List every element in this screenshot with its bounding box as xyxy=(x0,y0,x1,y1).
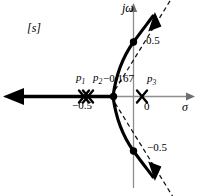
breakaway-point-label: −0.167 xyxy=(103,73,134,84)
origin-tick-label: 0 xyxy=(144,101,150,112)
s-plane-label: [s] xyxy=(27,22,41,34)
imaginary-axis xyxy=(130,3,137,188)
imag-crossing-positive-marker xyxy=(130,38,137,45)
pole-label-p2: p2 xyxy=(93,72,102,86)
pole-label-p3-subscript: 3 xyxy=(153,78,157,87)
pole-label-p1-subscript: 1 xyxy=(82,77,86,86)
pole-label-p3: p3 xyxy=(147,73,156,87)
root-locus-figure: [s] jω σ p1 p2 p3 −0.5 0 −0.167 0.5 −0.5 xyxy=(0,0,201,196)
breakaway-point-marker xyxy=(110,93,117,100)
real-axis-label: σ xyxy=(182,101,188,113)
imag-tick-label-plus-half: 0.5 xyxy=(146,35,160,46)
pole-label-p1: p1 xyxy=(76,72,85,86)
real-axis-locus-branch xyxy=(3,88,112,105)
imaginary-axis-label: jω xyxy=(122,2,134,14)
real-tick-label-minus-half: −0.5 xyxy=(72,100,92,111)
imag-tick-label-minus-half: −0.5 xyxy=(147,142,167,153)
pole-label-p2-subscript: 2 xyxy=(99,77,103,86)
imag-crossing-negative-marker xyxy=(130,147,137,154)
